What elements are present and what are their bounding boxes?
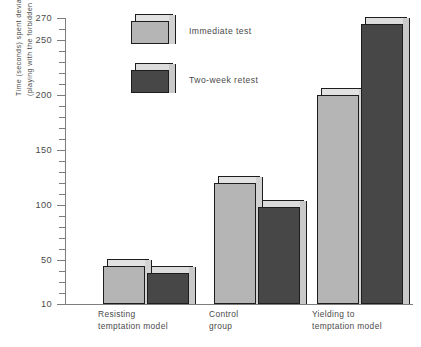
bar-top-face: [218, 176, 260, 183]
y-tick-minor: [59, 84, 66, 85]
y-tick-minor: [59, 293, 66, 294]
y-tick-minor: [59, 51, 66, 52]
y-tick-minor: [59, 194, 66, 195]
y-tick-label: 270: [0, 13, 52, 23]
x-group-label-line: Resisting: [98, 309, 168, 321]
legend-swatch-top-face: [135, 14, 173, 21]
y-tick-label: 10: [0, 299, 52, 309]
y-tick-minor: [59, 29, 66, 30]
y-tick-minor: [59, 238, 66, 239]
x-group-label-line: temptation model: [312, 321, 382, 333]
x-group-label: Yielding totemptation model: [312, 309, 382, 332]
x-group-label-line: Control: [209, 309, 238, 321]
y-tick-minor: [59, 161, 66, 162]
bar-side-face: [403, 18, 410, 305]
x-group-label-line: temptation model: [98, 321, 168, 333]
bar-two-week-retest: [361, 24, 403, 305]
legend-label: Immediate test: [189, 26, 252, 36]
light-bar-swatch: [131, 14, 177, 44]
y-tick-major: [57, 260, 66, 261]
legend-item[interactable]: Two-week retest: [131, 63, 291, 97]
bar-immediate-test: [103, 266, 145, 305]
bar-top-face: [107, 259, 149, 266]
y-tick-minor: [59, 282, 66, 283]
dark-bar-swatch: [131, 63, 177, 93]
y-tick-major: [57, 18, 66, 19]
bar-two-week-retest: [258, 207, 300, 304]
legend-swatch-side-face: [169, 64, 176, 93]
x-group-label-line: Yielding to: [312, 309, 382, 321]
x-group-label-line: group: [209, 321, 238, 333]
legend-swatch-front-face: [131, 21, 169, 44]
y-tick-major: [57, 95, 66, 96]
x-axis-line: [65, 304, 413, 305]
y-tick-major: [57, 205, 66, 206]
legend-swatch-top-face: [135, 63, 173, 70]
bar-immediate-test: [214, 183, 256, 304]
y-tick-label: 200: [0, 90, 52, 100]
bar-side-face: [300, 201, 307, 304]
y-tick-minor: [59, 216, 66, 217]
y-tick-major: [57, 150, 66, 151]
bar-top-face: [321, 88, 363, 95]
legend-label: Two-week retest: [189, 75, 258, 85]
y-tick-label: 100: [0, 200, 52, 210]
y-tick-minor: [59, 183, 66, 184]
bar-immediate-test: [317, 95, 359, 304]
x-group-label: Resistingtemptation model: [98, 309, 168, 332]
bar-top-face: [262, 200, 304, 207]
legend-item[interactable]: Immediate test: [131, 14, 291, 48]
y-tick-label: 50: [0, 255, 52, 265]
y-tick-minor: [59, 271, 66, 272]
bar-top-face: [365, 17, 407, 24]
y-tick-minor: [59, 73, 66, 74]
y-tick-minor: [59, 227, 66, 228]
y-tick-label: 250: [0, 35, 52, 45]
bar-side-face: [189, 267, 196, 304]
y-tick-minor: [59, 117, 66, 118]
y-tick-minor: [59, 172, 66, 173]
y-tick-minor: [59, 106, 66, 107]
bar-chart: Time (seconds) spent deviating (playing …: [0, 0, 421, 347]
y-tick-minor: [59, 139, 66, 140]
x-group-label: Controlgroup: [209, 309, 238, 332]
y-tick-minor: [59, 62, 66, 63]
bar-top-face: [151, 266, 193, 273]
legend-swatch-front-face: [131, 70, 169, 93]
y-tick-major: [57, 40, 66, 41]
y-tick-label: 150: [0, 145, 52, 155]
y-tick-minor: [59, 249, 66, 250]
bar-two-week-retest: [147, 273, 189, 304]
legend-swatch-side-face: [169, 15, 176, 44]
y-tick-minor: [59, 128, 66, 129]
